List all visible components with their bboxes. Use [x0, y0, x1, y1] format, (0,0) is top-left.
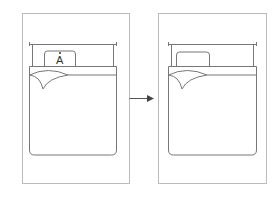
diagram-canvas: [0, 0, 280, 198]
panel-after: [159, 14, 267, 184]
transition-arrow-icon: [130, 95, 155, 102]
pillow: [177, 52, 210, 66]
bed-mattress: [30, 67, 117, 156]
panel-before: [23, 14, 130, 184]
label-marker-dot: [59, 52, 61, 54]
bed-mattress: [169, 67, 257, 156]
pillow-label: A: [56, 55, 63, 66]
